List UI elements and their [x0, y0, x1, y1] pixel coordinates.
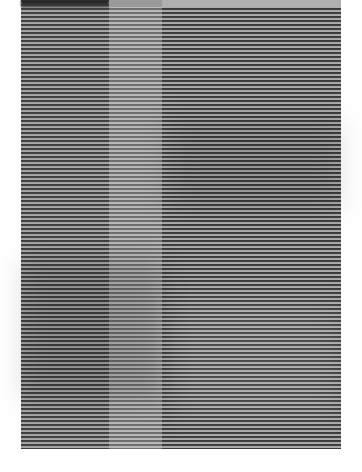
middle-stripe-column: [109, 0, 162, 449]
striped-photo: [21, 0, 341, 449]
top-band-middle: [109, 0, 162, 7]
right-stripe-column: [162, 0, 341, 449]
top-shadow-left: [21, 0, 109, 7]
left-stripe-column: [21, 0, 109, 449]
top-band-right: [162, 0, 341, 7]
